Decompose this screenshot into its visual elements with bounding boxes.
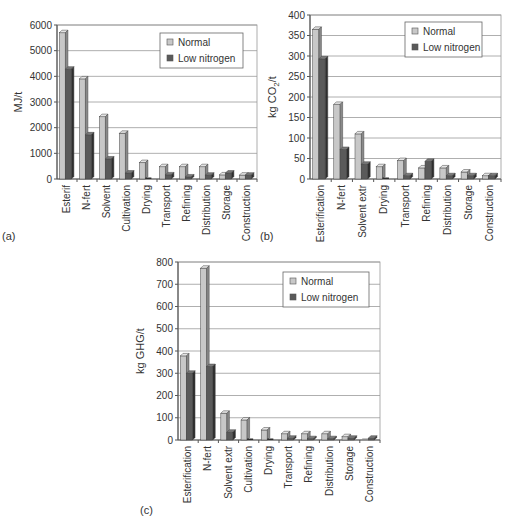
bar-low-nitrogen bbox=[361, 162, 370, 179]
y-tick-label: 700 bbox=[156, 279, 173, 290]
x-category-label: Construction bbox=[364, 446, 375, 502]
chart-b-co2: 050100150200250300350400kg CO2/tEsterifi… bbox=[258, 0, 516, 250]
x-category-label: Storage bbox=[221, 185, 232, 220]
bar-low-nitrogen bbox=[383, 178, 389, 180]
x-category-label: Cultivation bbox=[121, 185, 132, 232]
legend-label: Normal bbox=[423, 26, 455, 37]
y-tick-label: 1000 bbox=[30, 148, 53, 159]
panel-label: (c) bbox=[140, 504, 153, 516]
bar-low-nitrogen bbox=[105, 156, 114, 179]
bar-low-nitrogen bbox=[205, 173, 214, 179]
bar-low-nitrogen bbox=[245, 173, 254, 179]
chart-c-ghg: 0100200300400500600700800kg GHG/tEsterif… bbox=[128, 252, 390, 518]
y-tick-label: 0 bbox=[299, 174, 305, 185]
legend-swatch-normal bbox=[412, 28, 418, 34]
legend: NormalLow nitrogen bbox=[405, 22, 482, 57]
y-axis-label: MJ/t bbox=[12, 92, 24, 113]
bar-low-nitrogen bbox=[340, 147, 349, 179]
chart-a-energy: 0100020003000400050006000MJ/tEsterifN-fe… bbox=[0, 0, 258, 250]
y-tick-label: 400 bbox=[156, 346, 173, 357]
legend-swatch-normal bbox=[290, 278, 296, 284]
x-category-label: Refining bbox=[303, 446, 314, 483]
panel-label: (a) bbox=[2, 230, 15, 242]
x-category-label: Esterification bbox=[315, 185, 326, 242]
y-tick-label: 6000 bbox=[30, 20, 53, 31]
legend-label: Low nitrogen bbox=[301, 292, 358, 303]
legend-label: Normal bbox=[301, 276, 333, 287]
y-tick-label: 5000 bbox=[30, 45, 53, 56]
x-category-label: Drying bbox=[141, 185, 152, 214]
legend-label: Low nitrogen bbox=[423, 42, 480, 53]
x-category-label: N-fert bbox=[202, 446, 213, 471]
x-category-label: Esterif bbox=[61, 185, 72, 214]
chart-svg: 0100200300400500600700800kg GHG/tEsterif… bbox=[128, 252, 390, 518]
x-category-label: Storage bbox=[463, 185, 474, 220]
y-tick-label: 100 bbox=[156, 412, 173, 423]
bar-low-nitrogen bbox=[225, 171, 234, 179]
bar-low-nitrogen bbox=[425, 159, 434, 179]
y-axis-label: kg CO2/t bbox=[266, 76, 281, 118]
x-category-label: Distribution bbox=[201, 185, 212, 235]
bar-low-nitrogen bbox=[247, 439, 253, 441]
bar-low-nitrogen bbox=[85, 132, 94, 179]
x-category-label: Storage bbox=[344, 446, 355, 481]
bar-low-nitrogen bbox=[368, 436, 377, 440]
legend-swatch-low-nitrogen bbox=[167, 55, 173, 61]
bar-low-nitrogen bbox=[186, 371, 195, 440]
bar-low-nitrogen bbox=[404, 173, 413, 179]
chart-svg: 050100150200250300350400kg CO2/tEsterifi… bbox=[258, 0, 516, 250]
x-category-label: Construction bbox=[241, 185, 252, 241]
y-tick-label: 300 bbox=[156, 368, 173, 379]
y-tick-label: 2000 bbox=[30, 122, 53, 133]
bar-normal bbox=[139, 160, 148, 179]
x-category-label: Transport bbox=[161, 185, 172, 228]
x-category-label: Drying bbox=[263, 446, 274, 475]
y-tick-label: 250 bbox=[288, 71, 305, 82]
x-category-label: N-fert bbox=[81, 185, 92, 210]
bar-low-nitrogen bbox=[145, 178, 151, 180]
y-tick-label: 500 bbox=[156, 323, 173, 334]
x-category-label: Distribution bbox=[442, 185, 453, 235]
y-tick-label: 300 bbox=[288, 51, 305, 62]
bar-low-nitrogen bbox=[489, 173, 498, 179]
y-tick-label: 0 bbox=[167, 435, 173, 446]
y-tick-label: 200 bbox=[156, 390, 173, 401]
bar-low-nitrogen bbox=[207, 364, 216, 440]
legend: NormalLow nitrogen bbox=[160, 33, 243, 68]
bar-low-nitrogen bbox=[227, 430, 236, 440]
bar-low-nitrogen bbox=[165, 172, 174, 179]
x-category-label: Cultivation bbox=[243, 446, 254, 493]
bar-low-nitrogen bbox=[65, 67, 74, 179]
x-category-label: Solvent extr bbox=[223, 445, 234, 498]
y-tick-label: 800 bbox=[156, 257, 173, 268]
x-category-label: Construction bbox=[484, 185, 495, 241]
y-tick-label: 350 bbox=[288, 30, 305, 41]
y-tick-label: 50 bbox=[294, 153, 306, 164]
x-category-label: Refining bbox=[421, 185, 432, 222]
chart-svg: 0100020003000400050006000MJ/tEsterifN-fe… bbox=[0, 0, 258, 250]
x-category-label: Solvent bbox=[101, 185, 112, 219]
legend-label: Normal bbox=[178, 37, 210, 48]
bar-normal bbox=[241, 417, 250, 440]
y-tick-label: 4000 bbox=[30, 71, 53, 82]
y-tick-label: 100 bbox=[288, 133, 305, 144]
bar-low-nitrogen bbox=[446, 173, 455, 179]
bar-low-nitrogen bbox=[267, 439, 273, 441]
legend-swatch-low-nitrogen bbox=[290, 294, 296, 300]
bar-normal bbox=[376, 164, 385, 179]
bar-normal bbox=[261, 427, 270, 440]
x-category-label: Transport bbox=[283, 446, 294, 489]
x-category-label: Refining bbox=[181, 185, 192, 222]
y-tick-label: 400 bbox=[288, 10, 305, 21]
y-tick-label: 150 bbox=[288, 112, 305, 123]
legend-swatch-normal bbox=[167, 39, 173, 45]
y-tick-label: 0 bbox=[46, 174, 52, 185]
x-category-label: N-fert bbox=[336, 185, 347, 210]
legend-swatch-low-nitrogen bbox=[412, 44, 418, 50]
y-tick-label: 600 bbox=[156, 301, 173, 312]
x-category-label: Esterification bbox=[182, 446, 193, 503]
panel-label: (b) bbox=[260, 230, 273, 242]
y-tick-label: 200 bbox=[288, 92, 305, 103]
bar-low-nitrogen bbox=[319, 56, 328, 179]
x-category-label: Drying bbox=[378, 185, 389, 214]
